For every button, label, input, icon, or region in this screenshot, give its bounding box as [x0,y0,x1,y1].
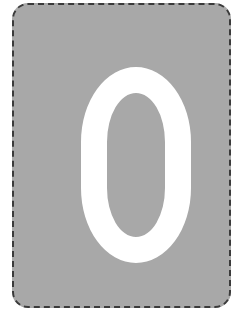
card-value: 0 [14,5,15,6]
digit-zero-glyph [81,67,191,263]
number-card[interactable]: 0 [12,3,231,308]
